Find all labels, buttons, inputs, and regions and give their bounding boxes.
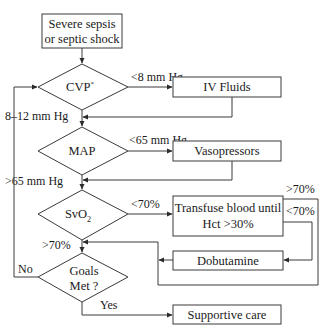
iv-fluids-label: IV Fluids bbox=[203, 80, 250, 94]
transfuse-label-line2: Hct >30% bbox=[202, 217, 253, 231]
start-box: Severe sepsis or septic shock bbox=[42, 14, 122, 48]
map-label: MAP bbox=[68, 144, 95, 158]
cvp-decision: CVP* bbox=[38, 64, 128, 110]
goals-label-line1: Goals bbox=[69, 264, 98, 278]
map-decision: MAP bbox=[38, 127, 128, 175]
vasopressors-box: Vasopressors bbox=[173, 141, 281, 161]
start-label-line2: or septic shock bbox=[45, 32, 121, 46]
cvp-label: CVP bbox=[66, 80, 90, 94]
edge-label-transfuse-low: <70% bbox=[286, 204, 315, 218]
arrow-goals-yes bbox=[82, 302, 172, 315]
dobutamine-label: Dobutamine bbox=[197, 254, 259, 268]
start-label-line1: Severe sepsis bbox=[49, 17, 116, 31]
sepsis-flowchart: Severe sepsis or septic shock CVP* <8 mm… bbox=[0, 0, 328, 334]
supportive-care-label: Supportive care bbox=[188, 308, 267, 322]
dobutamine-box: Dobutamine bbox=[173, 251, 283, 270]
svo2-subscript: 2 bbox=[87, 215, 91, 224]
vasopressors-label: Vasopressors bbox=[194, 144, 259, 158]
arrow-transfuse-low bbox=[283, 222, 312, 260]
goals-label-line2: Met ? bbox=[70, 279, 99, 293]
arrow-vasopressors-return bbox=[83, 161, 232, 180]
edge-label-goals-no: No bbox=[18, 262, 33, 276]
cvp-superscript: * bbox=[90, 80, 94, 88]
transfuse-box: Transfuse blood until Hct >30% bbox=[173, 196, 283, 236]
edge-label-cvp-ok: 8–12 mm Hg bbox=[5, 109, 68, 123]
arrow-ivfluids-return bbox=[83, 97, 232, 117]
iv-fluids-box: IV Fluids bbox=[173, 77, 281, 97]
svg-text:CVP*: CVP* bbox=[66, 80, 94, 94]
goals-decision: Goals Met ? bbox=[38, 253, 128, 302]
transfuse-label-line1: Transfuse blood until bbox=[175, 201, 282, 215]
edge-label-goals-yes: Yes bbox=[100, 298, 118, 312]
supportive-care-box: Supportive care bbox=[173, 305, 281, 324]
svo2-label: SvO bbox=[65, 207, 87, 221]
edge-label-svo2-low: <70% bbox=[131, 197, 160, 211]
edge-label-transfuse-high: >70% bbox=[286, 182, 315, 196]
svo2-decision: SvO2 bbox=[38, 190, 128, 240]
edge-label-svo2-ok: >70% bbox=[42, 238, 71, 252]
